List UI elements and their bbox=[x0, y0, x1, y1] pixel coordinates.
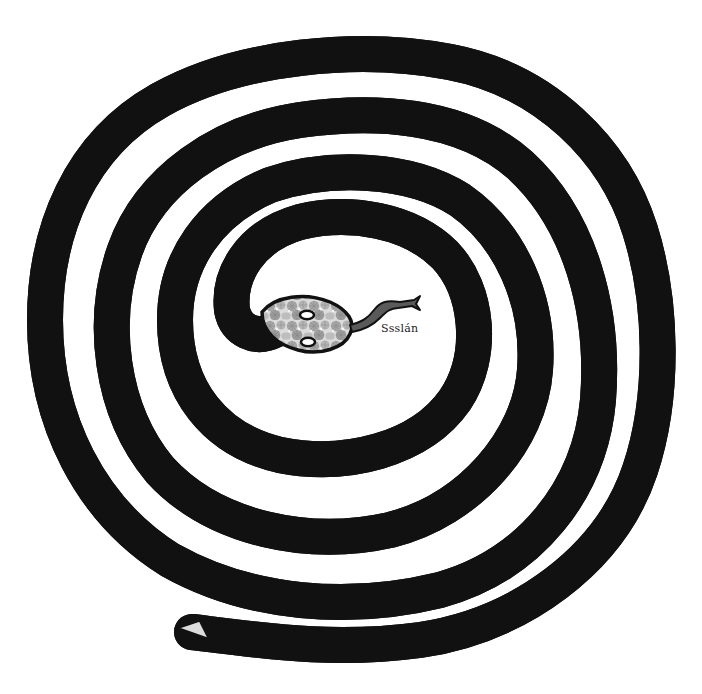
snake-spiral-svg bbox=[0, 0, 702, 694]
snake-eye-upper bbox=[300, 311, 314, 319]
snake-eye-lower bbox=[301, 338, 315, 346]
snake-body bbox=[45, 54, 658, 645]
snake-name-label: Ssslán bbox=[381, 322, 418, 335]
snake-illustration: Ssslán bbox=[0, 0, 702, 694]
